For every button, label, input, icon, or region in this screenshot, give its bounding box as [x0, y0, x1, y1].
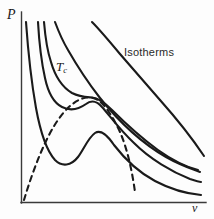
isotherms-annotation: Isotherms — [124, 47, 174, 58]
curve-subcritical-isotherm-2 — [26, 22, 201, 195]
y-axis-label: P — [7, 8, 16, 22]
x-axis-label: v — [192, 202, 197, 214]
pv-diagram-svg — [0, 0, 214, 219]
curve-subcritical-isotherm-1 — [38, 22, 201, 182]
critical-isotherm-label: Tc — [56, 60, 67, 74]
curve-supercritical-isotherm-2 — [55, 22, 200, 172]
critical-isotherm-label-subscript: c — [63, 65, 67, 75]
curve-coexistence-dome — [24, 97, 135, 200]
curve-critical-isotherm — [44, 22, 198, 170]
curve-supercritical-isotherm-1 — [92, 22, 204, 156]
van-der-waals-figure: P v Tc Isotherms — [0, 0, 214, 219]
